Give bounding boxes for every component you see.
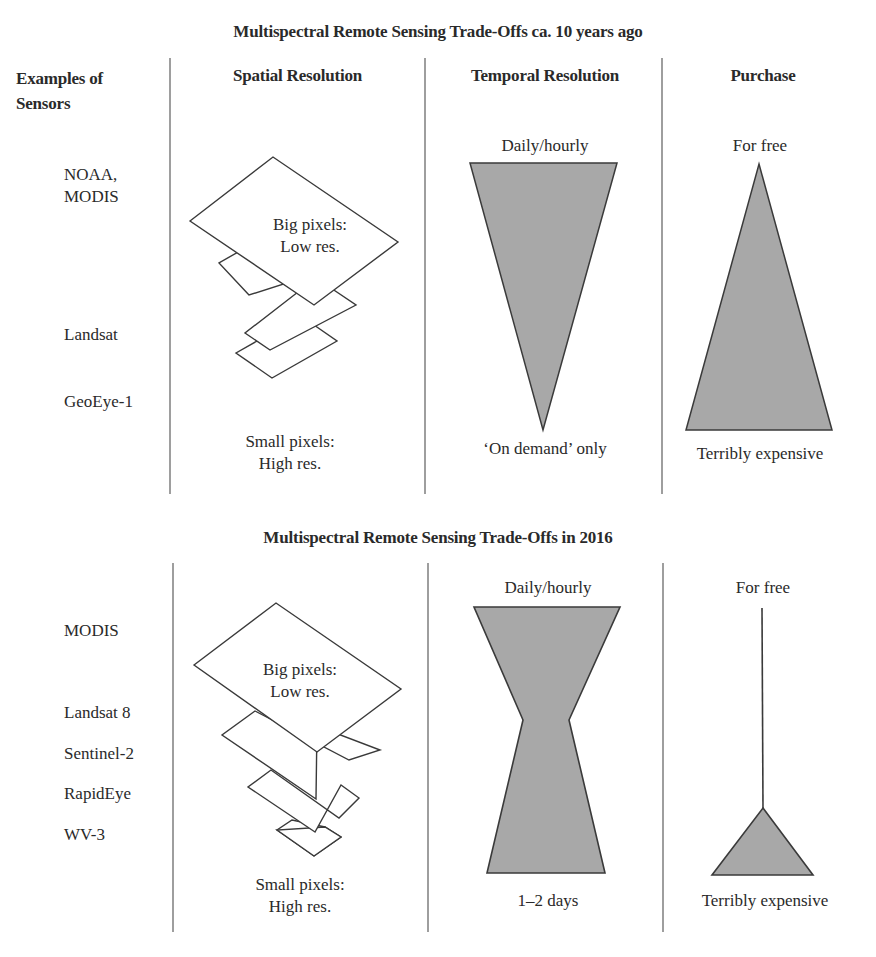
purchase-top-label: For free [703, 577, 823, 599]
sensor-label: Landsat [64, 324, 118, 346]
temporal-hourglass [474, 607, 620, 873]
temporal-inverted-triangle [470, 163, 617, 430]
spatial-top-label: Big pixels: Low res. [240, 214, 380, 258]
temporal-top-label: Daily/hourly [473, 577, 623, 599]
column-header-sensors: Examples of Sensors [16, 66, 161, 116]
purchase-top-label: For free [700, 135, 820, 157]
spatial-bottom-label-line1: Small pixels: [230, 874, 370, 896]
spatial-top-label: Big pixels: Low res. [230, 659, 370, 703]
bottom-panel-title: Multispectral Remote Sensing Trade-Offs … [0, 528, 876, 548]
temporal-bottom-label: 1–2 days [473, 890, 623, 912]
spatial-bottom-label: Small pixels: High res. [220, 431, 360, 475]
purchase-triangle [686, 164, 832, 430]
top-pixel-stack [190, 157, 398, 378]
purchase-line [762, 608, 763, 808]
spatial-top-label-line1: Big pixels: [230, 659, 370, 681]
sensor-label: Landsat 8 [64, 702, 131, 724]
purchase-bottom-label: Terribly expensive [670, 443, 850, 465]
pixel-layer-smallest-face [277, 827, 341, 856]
temporal-bottom-label: ‘On demand’ only [460, 438, 630, 460]
purchase-bottom-label: Terribly expensive [675, 890, 855, 912]
sensor-label: Sentinel-2 [64, 743, 134, 765]
spatial-bottom-label-line2: High res. [230, 896, 370, 918]
spatial-bottom-label: Small pixels: High res. [230, 874, 370, 918]
spatial-bottom-label-line2: High res. [220, 453, 360, 475]
spatial-top-label-line1: Big pixels: [240, 214, 380, 236]
sensor-label: WV-3 [64, 824, 105, 846]
sensor-label: GeoEye-1 [64, 391, 133, 413]
top-panel-title: Multispectral Remote Sensing Trade-Offs … [0, 22, 876, 42]
column-header-temporal: Temporal Resolution [430, 66, 660, 86]
column-header-spatial: Spatial Resolution [180, 66, 415, 86]
sensor-label: RapidEye [64, 783, 131, 805]
temporal-top-label: Daily/hourly [470, 135, 620, 157]
purchase-small-triangle [712, 808, 813, 875]
bottom-pixel-stack [194, 603, 401, 856]
column-header-purchase: Purchase [668, 66, 858, 86]
sensor-label: NOAA, MODIS [64, 164, 154, 208]
spatial-bottom-label-line1: Small pixels: [220, 431, 360, 453]
spatial-top-label-line2: Low res. [230, 681, 370, 703]
sensor-label: MODIS [64, 620, 119, 642]
spatial-top-label-line2: Low res. [240, 236, 380, 258]
